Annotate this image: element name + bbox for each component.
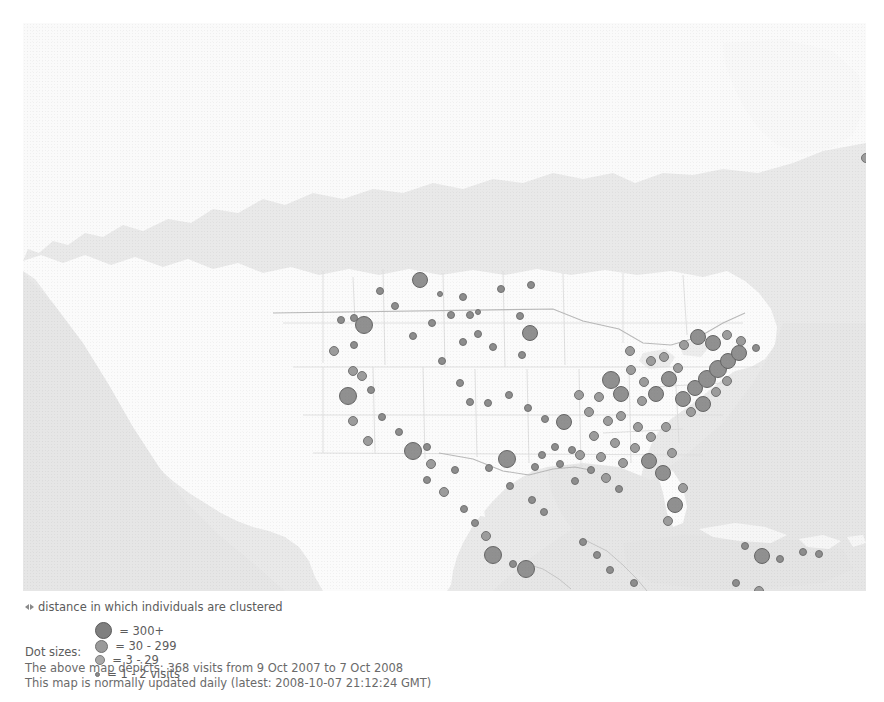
visit-dot bbox=[438, 357, 446, 365]
legend-item-label: = 30 - 299 bbox=[115, 639, 176, 653]
visit-dot bbox=[589, 431, 599, 441]
visit-dot bbox=[391, 302, 399, 310]
visit-dot bbox=[541, 415, 549, 423]
legend-item: = 300+ bbox=[95, 622, 180, 639]
legend-item: = 30 - 299 bbox=[95, 639, 180, 653]
visit-dot bbox=[409, 332, 417, 340]
visit-dot bbox=[571, 477, 579, 485]
visit-dot bbox=[711, 387, 721, 397]
map-basemap bbox=[23, 23, 866, 591]
visit-dot bbox=[754, 548, 770, 564]
visit-dot bbox=[337, 316, 345, 324]
visitor-map-page: distance in which individuals are cluste… bbox=[0, 0, 884, 702]
visit-dot bbox=[527, 281, 535, 289]
visit-dot bbox=[439, 487, 449, 497]
visit-dot bbox=[350, 341, 358, 349]
visit-dot bbox=[752, 344, 760, 352]
visit-dot bbox=[355, 316, 373, 334]
visit-dot bbox=[610, 438, 620, 448]
visit-dot bbox=[484, 546, 502, 564]
visit-dot bbox=[376, 287, 384, 295]
visit-dot bbox=[485, 464, 493, 472]
visit-dot bbox=[481, 531, 491, 541]
visit-dot bbox=[489, 343, 497, 351]
visit-dot bbox=[556, 414, 572, 430]
visit-dot bbox=[637, 396, 647, 406]
visit-dot bbox=[412, 272, 428, 288]
visit-dot bbox=[540, 508, 548, 516]
visit-dot bbox=[661, 371, 677, 387]
visit-dot bbox=[630, 443, 640, 453]
visit-dot bbox=[731, 345, 747, 361]
visit-dot bbox=[639, 377, 649, 387]
visit-dot bbox=[587, 466, 595, 474]
visit-dot bbox=[575, 450, 585, 460]
visit-dot bbox=[329, 346, 339, 356]
visit-dot bbox=[663, 516, 673, 526]
visit-dot bbox=[579, 538, 587, 546]
visit-dot bbox=[646, 432, 656, 442]
visit-dot bbox=[474, 330, 482, 338]
visit-dot bbox=[459, 293, 467, 301]
visit-dot bbox=[531, 463, 539, 471]
visit-dot bbox=[423, 443, 431, 451]
visit-dot bbox=[451, 466, 459, 474]
visit-dot bbox=[357, 371, 367, 381]
visit-dot bbox=[498, 450, 516, 468]
visit-dot bbox=[655, 465, 671, 481]
visit-dot bbox=[484, 399, 492, 407]
visit-dot bbox=[815, 550, 823, 558]
visit-dot bbox=[722, 376, 732, 386]
visit-dot bbox=[722, 330, 732, 340]
visit-dot bbox=[606, 566, 614, 574]
visit-dot bbox=[460, 505, 468, 513]
caption-visits-line: The above map depicts: 368 visits from 9… bbox=[25, 661, 665, 676]
visit-dot bbox=[667, 448, 677, 458]
visitor-map[interactable] bbox=[23, 23, 866, 591]
visit-dot bbox=[456, 379, 464, 387]
visit-dot bbox=[633, 422, 643, 432]
visit-dot bbox=[471, 519, 479, 527]
visit-dot bbox=[551, 443, 559, 451]
visit-dot bbox=[522, 325, 538, 341]
visit-dot bbox=[426, 459, 436, 469]
visit-dot bbox=[705, 335, 721, 351]
visit-dot bbox=[339, 387, 357, 405]
visit-dot bbox=[776, 555, 784, 563]
visit-dot bbox=[695, 396, 711, 412]
visit-dot bbox=[593, 551, 601, 559]
horizontal-distance-arrows-icon bbox=[25, 604, 34, 611]
visit-dot bbox=[475, 309, 481, 315]
visit-dot bbox=[736, 336, 746, 346]
visit-dot bbox=[497, 285, 505, 293]
visit-dot bbox=[506, 482, 514, 490]
visit-dot bbox=[363, 436, 373, 446]
visit-dot bbox=[648, 386, 664, 402]
legend-item-label: = 300+ bbox=[119, 624, 164, 638]
visit-dot bbox=[505, 391, 513, 399]
visit-dot bbox=[686, 407, 696, 417]
visit-dot bbox=[601, 473, 611, 483]
visit-dot bbox=[690, 329, 706, 345]
visit-dot bbox=[423, 476, 431, 484]
visit-dot bbox=[799, 548, 807, 556]
visit-dot bbox=[630, 579, 638, 587]
visit-dot bbox=[732, 579, 740, 587]
visit-dot bbox=[754, 586, 764, 591]
visit-dot bbox=[603, 416, 613, 426]
visit-dot bbox=[625, 346, 635, 356]
map-caption: The above map depicts: 368 visits from 9… bbox=[25, 661, 665, 691]
visit-dot bbox=[348, 416, 358, 426]
visit-dot bbox=[367, 386, 375, 394]
distance-note-text: distance in which individuals are cluste… bbox=[38, 600, 283, 615]
visit-dot bbox=[518, 351, 526, 359]
visit-dot bbox=[459, 338, 467, 346]
visit-dot bbox=[667, 497, 683, 513]
visit-dot bbox=[594, 392, 604, 402]
visit-dot bbox=[437, 291, 443, 297]
visit-dot bbox=[517, 560, 535, 578]
visit-dot bbox=[673, 363, 683, 373]
visit-dot bbox=[378, 413, 386, 421]
visit-dot bbox=[556, 460, 564, 468]
visit-dot bbox=[509, 560, 517, 568]
